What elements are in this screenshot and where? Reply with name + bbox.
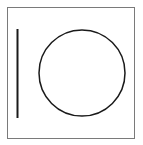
diagram-canvas xyxy=(0,0,143,145)
frame-border xyxy=(8,8,135,139)
circle-shape xyxy=(39,30,125,116)
